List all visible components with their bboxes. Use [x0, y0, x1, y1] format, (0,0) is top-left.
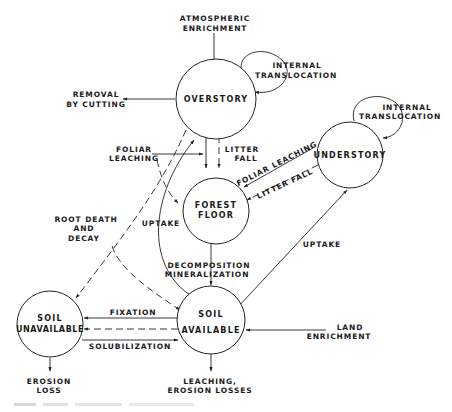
- node-overstory: OVERSTORY: [176, 59, 256, 139]
- removal-by-cutting-label-1: REMOVAL: [73, 90, 120, 99]
- foliar-leaching-label-1: FOLIAR: [116, 145, 152, 154]
- node-soil-available-label-1: SOIL: [198, 310, 223, 319]
- node-overstory-label: OVERSTORY: [184, 95, 249, 104]
- caption-fragment: [14, 403, 194, 406]
- land-enrichment-label-1: LAND: [337, 323, 364, 332]
- root-death-label-1: ROOT DEATH: [54, 215, 117, 224]
- land-enrichment-label-2: ENRICHMENT: [307, 332, 372, 341]
- root-death-label-2: AND: [73, 224, 94, 233]
- node-soil-unavailable-label-2: UNAVAILABLE: [16, 325, 84, 334]
- overstory-uptake-label: UPTAKE: [142, 219, 180, 228]
- leaching-losses-label-1: LEACHING,: [183, 377, 237, 386]
- node-understory-label: UNDERSTORY: [314, 151, 387, 160]
- node-soil-available: SOIL AVAILABLE: [177, 286, 245, 354]
- node-forest-floor-label-2: FLOOR: [198, 211, 234, 220]
- foliar-leaching-label-2: LEACHING: [109, 154, 159, 163]
- node-soil-available-label-2: AVAILABLE: [181, 326, 240, 335]
- leaching-losses-label-2: EROSION LOSSES: [167, 386, 252, 395]
- node-understory: UNDERSTORY: [314, 122, 387, 188]
- overstory-translocation-label-2: TRANSLOCATION: [255, 71, 337, 80]
- solubilization-label: SOLUBILIZATION: [89, 342, 171, 351]
- erosion-loss-label-1: EROSION: [27, 377, 71, 386]
- root-death-label-3: DECAY: [68, 234, 100, 243]
- understory-uptake-label: UPTAKE: [303, 240, 341, 249]
- node-forest-floor-label-1: FOREST: [195, 201, 237, 210]
- node-soil-unavailable-label-1: SOIL: [37, 314, 62, 323]
- erosion-loss-label-2: LOSS: [37, 386, 62, 395]
- node-soil-unavailable: SOIL UNAVAILABLE: [16, 291, 84, 357]
- decomposition-label-1: DECOMPOSITION: [167, 261, 250, 270]
- fixation-label: FIXATION: [110, 308, 157, 317]
- litter-fall-label-1: LITTER: [225, 145, 259, 154]
- overstory-to-forest-floor-dashed-curve: [157, 160, 178, 203]
- removal-by-cutting-label-2: BY CUTTING: [66, 100, 126, 109]
- litter-fall-label-2: FALL: [234, 154, 257, 163]
- nutrient-cycle-diagram: OVERSTORY FOREST FLOOR UNDERSTORY SOIL U…: [0, 0, 452, 412]
- decomposition-label-2: MINERALIZATION: [165, 270, 250, 279]
- overstory-translocation-label-1: INTERNAL: [272, 61, 321, 70]
- understory-uptake-arrow: [237, 190, 347, 308]
- understory-translocation-label-2: TRANSLOCATION: [359, 112, 441, 121]
- understory-translocation-label-1: INTERNAL: [382, 103, 431, 112]
- atmospheric-enrichment-label-2: ENRICHMENT: [183, 24, 248, 33]
- atmospheric-enrichment-label-1: ATMOSPHERIC: [180, 14, 250, 23]
